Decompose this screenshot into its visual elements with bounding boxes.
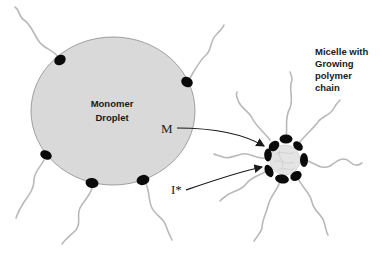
micelle-label-line1: Micelle with [315, 46, 369, 57]
droplet-label-line2: Droplet [95, 112, 129, 123]
droplet-label-line1: Monomer [91, 98, 134, 109]
micelle-label-line4: chain [315, 82, 340, 93]
initiator-label: I* [171, 182, 182, 197]
micelle-label-line2: Growing [315, 58, 354, 69]
emulsion-polymerization-diagram: Monomer Droplet M I* Micelle with [0, 0, 382, 254]
monomer-label: M [161, 121, 173, 136]
micelle-label: Micelle with Growing polymer chain [315, 46, 369, 93]
micelle-label-line3: polymer [315, 70, 352, 81]
